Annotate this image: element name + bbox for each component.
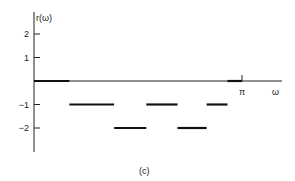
y-axis-label: r(ω) <box>36 13 52 23</box>
y-tick-label: −1 <box>19 100 29 110</box>
x-axis-label: ω <box>272 87 279 97</box>
x-tick-label-pi: π <box>239 87 245 97</box>
y-tick-label: −2 <box>19 123 29 133</box>
chart: r(ω) ω π 21−1−2 (c) <box>0 0 295 181</box>
y-tick-label: 1 <box>24 53 29 63</box>
y-tick-label: 2 <box>24 29 29 39</box>
caption: (c) <box>139 166 150 176</box>
